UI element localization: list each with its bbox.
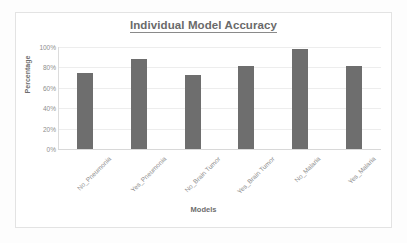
bar[interactable] (185, 75, 201, 149)
bar[interactable] (238, 66, 254, 149)
y-tick-label: 0% (26, 146, 56, 153)
x-label-slot: Yes_Brain Tumor (219, 149, 273, 205)
bar-slot (166, 47, 220, 149)
y-tick-label: 100% (26, 44, 56, 51)
chart-figure: Individual Model Accuracy Percentage 100… (15, 12, 392, 228)
x-tick-label: No_Malaria (293, 155, 321, 183)
y-tick-label: 80% (26, 64, 56, 71)
bar-slot (327, 47, 381, 149)
x-label-slot: No_Pneumonia (58, 149, 112, 205)
y-axis-tick-labels: 100% 80% 60% 40% 20% 0% (26, 47, 56, 149)
x-tick-label: Yes_Pneumonia (129, 155, 167, 193)
bar-slot (112, 47, 166, 149)
x-label-slot: No_Malaria (273, 149, 327, 205)
bar-slot (273, 47, 327, 149)
bar[interactable] (346, 66, 362, 149)
bar[interactable] (292, 49, 308, 149)
x-axis-tick-labels: No_Pneumonia Yes_Pneumonia No_Brain Tumo… (58, 149, 381, 205)
x-label-slot: Yes_Pneumonia (112, 149, 166, 205)
x-tick-label: Yes_Malaria (347, 155, 377, 185)
bar[interactable] (131, 59, 147, 149)
bars-layer (58, 47, 381, 149)
x-tick-label: No_Brain Tumor (183, 155, 221, 193)
bar-slot (219, 47, 273, 149)
bar-slot (58, 47, 112, 149)
x-label-slot: Yes_Malaria (327, 149, 381, 205)
x-tick-label: No_Pneumonia (76, 155, 113, 192)
x-tick-label: Yes_Brain Tumor (236, 155, 276, 195)
y-tick-label: 40% (26, 105, 56, 112)
chart-title-text: Individual Model Accuracy (130, 19, 277, 33)
bar[interactable] (77, 73, 93, 150)
chart-title: Individual Model Accuracy (16, 19, 391, 31)
x-axis-title: Models (16, 205, 391, 214)
plot-area (58, 47, 381, 149)
y-tick-label: 60% (26, 84, 56, 91)
x-label-slot: No_Brain Tumor (166, 149, 220, 205)
y-tick-label: 20% (26, 125, 56, 132)
